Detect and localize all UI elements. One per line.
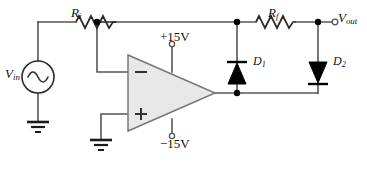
- node-d1-top: [234, 19, 240, 25]
- feedback-resistor-label: Rf: [268, 6, 278, 21]
- diode-2-symbol: [308, 62, 328, 84]
- circuit-diagram: Ri Rf Vin Vout D1 D2 +15V −15V: [0, 0, 367, 180]
- output-terminal-dot: [332, 19, 338, 25]
- wire-noninverting-to-ground: [101, 114, 128, 140]
- input-source-symbol: [22, 61, 54, 93]
- source-ground-symbol: [27, 122, 49, 132]
- output-terminal-label: Vout: [338, 11, 357, 26]
- node-summing-junction: [94, 19, 100, 25]
- diode-1-label: D1: [253, 55, 266, 69]
- diode-2-label: D2: [333, 55, 346, 69]
- supply-positive-label: +15V: [160, 30, 190, 43]
- node-d2-top: [315, 19, 321, 25]
- node-output-junction: [234, 90, 240, 96]
- input-resistor-label: Ri: [71, 6, 81, 21]
- noninverting-ground-symbol: [90, 140, 112, 150]
- circuit-schematic-svg: [0, 0, 367, 180]
- input-source-label: Vin: [5, 67, 20, 82]
- wire-summing-node-to-inverting-input: [97, 22, 128, 72]
- diode-1-symbol: [227, 62, 247, 84]
- supply-negative-label: −15V: [160, 137, 190, 150]
